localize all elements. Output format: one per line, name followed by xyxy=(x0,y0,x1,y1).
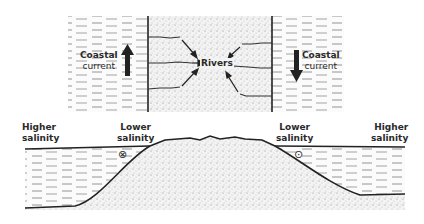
right-inner-salinity-label: Lower salinity xyxy=(276,122,313,144)
right-outer-salinity-label: Higher salinity xyxy=(371,122,408,144)
label-line: current xyxy=(80,61,118,72)
left-current-label: Coastal current xyxy=(80,50,118,72)
left-inner-salinity-label: Lower salinity xyxy=(117,122,154,144)
diagram-canvas xyxy=(0,0,424,224)
right-current-label: Coastal current xyxy=(302,50,340,72)
left-outer-salinity-label: Higher salinity xyxy=(22,122,59,144)
cross-section xyxy=(25,136,405,210)
flow-out-of-page-icon: ⊙ xyxy=(294,149,303,160)
label-line: salinity xyxy=(117,133,154,144)
label-line: Higher xyxy=(371,122,408,133)
label-line: Lower xyxy=(276,122,313,133)
label-line: salinity xyxy=(22,133,59,144)
flow-into-page-icon: ⊗ xyxy=(118,149,127,160)
label-line: salinity xyxy=(276,133,313,144)
label-line: Coastal xyxy=(80,50,118,61)
label-line: Lower xyxy=(117,122,154,133)
label-line: current xyxy=(302,61,340,72)
rivers-label: Rivers xyxy=(200,58,234,69)
label-line: Higher xyxy=(22,122,59,133)
label-line: salinity xyxy=(371,133,408,144)
label-line: Coastal xyxy=(302,50,340,61)
